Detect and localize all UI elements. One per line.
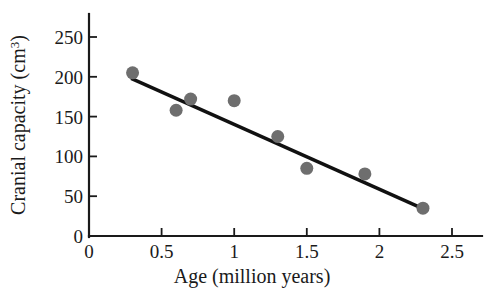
y-axis-title-close: ) (7, 35, 30, 42)
data-point-marker (184, 93, 197, 106)
y-axis-title: Cranial capacity (cm3) (7, 35, 30, 215)
x-tick-label: 2.5 (440, 241, 464, 262)
x-tick-label: 2 (375, 241, 385, 262)
x-axis-title: Age (million years) (174, 265, 331, 288)
trend-line-segment (131, 78, 420, 207)
data-point-marker (300, 162, 313, 175)
x-tick-label: 1.5 (295, 241, 319, 262)
x-tick-label: 1 (229, 241, 239, 262)
data-point-marker (416, 202, 429, 215)
x-axis-ticks (162, 228, 452, 236)
y-axis-ticks (89, 37, 97, 196)
x-axis-tick-labels: 00.511.522.5 (84, 241, 464, 262)
data-point-marker (228, 94, 241, 107)
y-tick-label: 50 (64, 186, 83, 207)
chart-svg: 050100150200250 00.511.522.5 Age (millio… (0, 0, 490, 293)
x-tick-label: 0.5 (150, 241, 174, 262)
y-axis-title-base: Cranial capacity (cm (7, 48, 30, 215)
y-axis: 050100150200250 (55, 14, 98, 247)
data-point-marker (170, 104, 183, 117)
y-axis-tick-labels: 050100150200250 (55, 27, 84, 247)
y-tick-label: 150 (55, 107, 84, 128)
trend-line (131, 78, 420, 207)
cranial-capacity-scatter-chart: 050100150200250 00.511.522.5 Age (millio… (0, 0, 490, 293)
x-tick-label: 0 (84, 241, 94, 262)
y-tick-label: 200 (55, 67, 84, 88)
y-tick-label: 250 (55, 27, 84, 48)
data-point-marker (358, 167, 371, 180)
data-point-marker (271, 130, 284, 143)
data-point-marker (126, 66, 139, 79)
x-axis: 00.511.522.5 (84, 228, 482, 262)
y-tick-label: 100 (55, 146, 84, 167)
y-tick-label: 0 (74, 226, 84, 247)
